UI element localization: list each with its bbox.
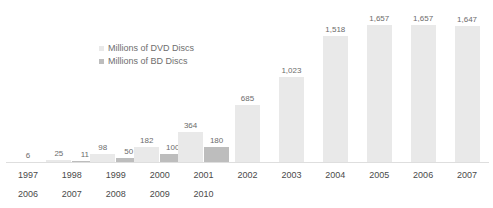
x-axis-row-dvd-years: 1997199819992000200120022003200420052006… (0, 169, 493, 188)
bar-value-label-dvd: 6 (26, 151, 30, 160)
x-axis-label-bd: 2007 (62, 188, 82, 200)
bar-dvd: 6 (15, 150, 40, 162)
bar-dvd: 182 (134, 135, 159, 162)
bar-value-label-bd: 50 (124, 147, 133, 156)
x-axis-label-dvd: 1998 (62, 169, 82, 181)
x-axis-label-dvd: 2000 (150, 169, 170, 181)
bar-dvd: 685 (235, 93, 260, 162)
x-axis-label-dvd: 2001 (194, 169, 214, 181)
x-axis-labels: 1997199819992000200120022003200420052006… (0, 163, 493, 208)
bar-rect-dvd (279, 77, 304, 162)
x-axis-label-bd: 2006 (18, 188, 38, 200)
bar-dvd: 1,023 (279, 65, 304, 162)
x-axis-label-dvd: 1999 (106, 169, 126, 181)
bar-rect-dvd (134, 147, 159, 162)
bar-rect-dvd (411, 25, 436, 162)
bar-group: 1,518 (323, 0, 348, 162)
bar-value-label-dvd: 1,657 (413, 14, 433, 23)
bar-rect-dvd (90, 154, 115, 162)
bar-value-label-bd: 11 (81, 150, 89, 159)
bar-group: 685 (235, 0, 260, 162)
bar-group: 1,647 (455, 0, 480, 162)
bar-rect-bd (204, 147, 229, 162)
bar-value-label-dvd: 25 (54, 149, 63, 158)
bar-group: 1,023 (279, 0, 304, 162)
bar-group: 6 (15, 0, 40, 162)
bar-dvd: 98 (90, 142, 115, 162)
x-axis-label-dvd: 2003 (281, 169, 301, 181)
bar-value-label-dvd: 182 (140, 136, 153, 145)
x-axis-label-dvd: 1997 (18, 169, 38, 181)
x-axis-label-dvd: 2007 (457, 169, 477, 181)
bar-bd: 180 (204, 135, 229, 162)
bar-value-label-dvd: 98 (98, 143, 107, 152)
bar-rect-dvd (235, 105, 260, 162)
bar-dvd: 1,657 (367, 13, 392, 162)
bar-value-label-dvd: 1,657 (369, 14, 389, 23)
x-axis-label-dvd: 2002 (237, 169, 257, 181)
bar-value-label-dvd: 1,647 (457, 15, 477, 24)
bar-dvd: 25 (46, 148, 71, 162)
bar-rect-dvd (46, 160, 71, 162)
x-axis-label-dvd: 2006 (413, 169, 433, 181)
x-axis-label-dvd: 2004 (325, 169, 345, 181)
x-axis-row-bd-years: 20062007200820092010 (0, 188, 493, 207)
bar-value-label-dvd: 364 (184, 121, 197, 130)
bar-dvd: 1,518 (323, 24, 348, 162)
bar-chart: Millions of DVD Discs Millions of BD Dis… (0, 0, 493, 208)
x-axis-label-bd: 2010 (194, 188, 214, 200)
x-axis-label-dvd: 2005 (369, 169, 389, 181)
bar-rect-dvd (455, 26, 480, 162)
bar-group: 1,657 (367, 0, 392, 162)
bar-value-label-dvd: 685 (241, 94, 254, 103)
x-axis-label-bd: 2008 (106, 188, 126, 200)
bar-dvd: 1,647 (455, 14, 480, 162)
bar-value-label-dvd: 1,023 (281, 66, 301, 75)
x-axis-label-bd: 2009 (150, 188, 170, 200)
bar-group: 364180 (178, 0, 229, 162)
bar-rect-dvd (178, 132, 203, 162)
plot-area: 6251198501821003641806851,0231,5181,6571… (0, 0, 493, 163)
bar-dvd: 1,657 (411, 13, 436, 162)
bar-rect-dvd (367, 25, 392, 162)
bar-value-label-bd: 180 (210, 136, 223, 145)
bar-dvd: 364 (178, 120, 203, 162)
bar-group: 1,657 (411, 0, 436, 162)
bar-rect-dvd (323, 36, 348, 162)
bar-value-label-dvd: 1,518 (325, 25, 345, 34)
